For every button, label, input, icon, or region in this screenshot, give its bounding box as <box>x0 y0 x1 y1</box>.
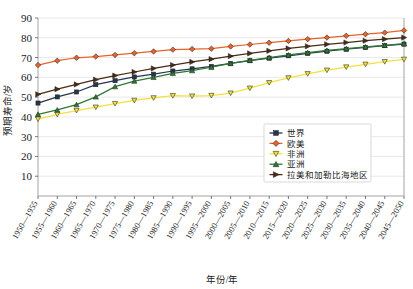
data-point-marker <box>94 83 98 87</box>
y-tick-label: 30 <box>21 131 33 143</box>
y-tick-label: 10 <box>21 170 33 182</box>
data-point-marker <box>74 90 78 94</box>
legend-label: 世界 <box>287 128 305 138</box>
chart-legend[interactable]: 世界欧美非洲亚洲拉美和加勒比海地区 <box>264 124 371 182</box>
y-tick-label: 40 <box>21 111 33 123</box>
life-expectancy-chart: 102030405060708090 1950—19551955—1960196… <box>0 0 413 289</box>
legend-label: 拉美和加勒比海地区 <box>287 170 368 180</box>
y-tick-label: 50 <box>21 91 33 103</box>
y-tick-label: 90 <box>21 12 33 24</box>
legend-label: 非洲 <box>287 149 305 159</box>
y-tick-label: 60 <box>21 71 33 83</box>
y-axis-title: 预期寿命/岁 <box>2 84 13 137</box>
legend-label: 亚洲 <box>287 159 305 169</box>
data-point-marker <box>113 79 117 83</box>
legend-marker-icon <box>274 131 279 136</box>
y-tick-label: 20 <box>21 150 33 162</box>
y-tick-label: 70 <box>21 52 33 64</box>
data-point-marker <box>36 101 40 105</box>
legend-label: 欧美 <box>287 139 305 149</box>
y-tick-label: 80 <box>21 32 33 44</box>
x-axis-title: 年份/年 <box>206 274 239 285</box>
data-point-marker <box>55 95 59 99</box>
